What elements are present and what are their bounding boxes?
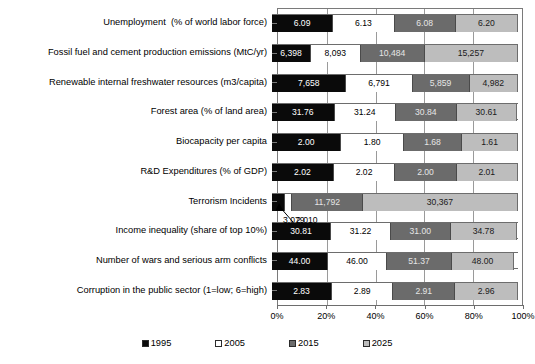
category-label: Terrorism Incidents	[0, 196, 272, 207]
bar-segment-2005: 2.89	[332, 283, 393, 300]
bar-segment-1995: 31.76	[272, 104, 335, 121]
chart-rows: Unemployment (% of world labor force)6.0…	[0, 8, 534, 305]
segment-value-label: 6.08	[416, 19, 433, 28]
segment-value-label: 11,792	[314, 198, 340, 207]
segment-value-label: 1.61	[481, 138, 498, 147]
bar-segment-1995: 2.02	[272, 164, 334, 181]
segment-value-label: 6.20	[478, 19, 495, 28]
segment-value-label: 6.09	[294, 19, 311, 28]
legend-item-2005[interactable]: 2005	[215, 338, 245, 348]
segment-value-label: 34.78	[473, 227, 495, 236]
x-axis-tick-label: 40%	[366, 311, 384, 322]
segment-value-label: 44.00	[289, 257, 311, 266]
segment-value-label: 2.91	[415, 287, 432, 296]
bar-segment-1995: 44.00	[272, 253, 328, 270]
legend-swatch-icon	[142, 340, 149, 347]
legend-swatch-icon	[215, 340, 222, 347]
segment-value-label: 15,257	[458, 49, 484, 58]
segment-value-label: 31.00	[410, 227, 432, 236]
category-label: Corruption in the public sector (1=low; …	[0, 285, 272, 296]
bar-segment-1995: 6,398	[272, 45, 311, 62]
y-axis-tick	[272, 82, 277, 83]
bar-segment-2015: 1.68	[404, 134, 462, 151]
segment-value-label: 2.00	[298, 138, 315, 147]
bar-segment-1995: 6.09	[272, 15, 333, 32]
y-axis-tick	[272, 112, 277, 113]
bar-segment-2025: 6.20	[456, 15, 518, 32]
segment-value-label: 7,658	[298, 79, 320, 88]
bar-segment-2025: 30,367	[363, 194, 518, 211]
bar-segment-2015: 30.84	[396, 104, 457, 121]
bar-track: 31.7631.2430.8430.61	[272, 103, 518, 120]
segment-value-label: 2.01	[478, 168, 495, 177]
category-label: Fossil fuel and cement production emissi…	[0, 47, 272, 58]
y-axis-tick	[272, 231, 277, 232]
chart-row: Corruption in the public sector (1=low; …	[0, 275, 534, 305]
chart-row: R&D Expenditures (% of GDP)2.022.022.002…	[0, 157, 534, 187]
x-axis-tick	[425, 305, 426, 309]
bar-segment-2005: 6,791	[346, 75, 412, 92]
chart-row: Unemployment (% of world labor force)6.0…	[0, 8, 534, 38]
bar-segment-2025: 30.61	[457, 104, 517, 121]
bar-segment-2005: 31.22	[331, 223, 391, 240]
legend-item-1995[interactable]: 1995	[142, 338, 172, 348]
bar-segment-2025: 34.78	[451, 223, 518, 240]
bar-segment-2015: 51.37	[387, 253, 453, 270]
segment-value-label: 6.13	[355, 19, 372, 28]
category-label: Number of wars and serious arm conflicts	[0, 255, 272, 266]
bar-segment-2005: 31.24	[335, 104, 397, 121]
segment-value-label: 2.00	[417, 168, 434, 177]
bar-segment-2015: 5,859	[413, 75, 470, 92]
segment-value-label: 2.96	[478, 287, 495, 296]
bar-segment-2015: 31.00	[391, 223, 451, 240]
y-axis-tick	[272, 290, 277, 291]
bar-segment-2015: 2.91	[393, 283, 455, 300]
bar-segment-2005: 2.02	[334, 164, 396, 181]
bar-segment-2005: 6.13	[333, 15, 395, 32]
category-label: Biocapacity per capita	[0, 136, 272, 147]
segment-value-label: 30.81	[290, 227, 312, 236]
chart-row: Renewable internal freshwater resources …	[0, 67, 534, 97]
legend-swatch-icon	[289, 340, 296, 347]
x-axis-line	[277, 305, 523, 306]
y-axis-tick	[272, 23, 277, 24]
legend-label: 2005	[224, 338, 245, 348]
segment-value-label: 31.22	[350, 227, 372, 236]
bar-segment-2025: 48.00	[452, 253, 513, 270]
y-axis-tick	[272, 53, 277, 54]
bar-track: 6,3988,09310,48415,257	[272, 44, 518, 61]
segment-value-label: 31.24	[354, 108, 376, 117]
segment-value-label: 6,791	[368, 79, 390, 88]
x-axis-tick-label: 0%	[270, 311, 283, 322]
legend-swatch-icon	[363, 340, 370, 347]
bar-segment-2015: 10,484	[361, 45, 425, 62]
legend-item-2025[interactable]: 2025	[363, 338, 393, 348]
bar-segment-2015: 2.00	[395, 164, 456, 181]
bar-segment-2025: 2.96	[455, 283, 518, 300]
segment-value-label: 2.89	[354, 287, 371, 296]
bar-track: 6.096.136.086.20	[272, 14, 518, 31]
bar-segment-1995: 7,658	[272, 75, 346, 92]
y-axis-tick	[272, 171, 277, 172]
segment-value-label: 4,982	[482, 79, 504, 88]
x-axis-tick-label: 20%	[317, 311, 335, 322]
segment-value-label: 6,398	[280, 49, 302, 58]
segment-value-label: 30,367	[427, 198, 453, 207]
segment-value-label: 5,859	[430, 79, 452, 88]
bar-segment-2025: 1.61	[462, 134, 518, 151]
bar-track: 2.001.801.681.61	[272, 133, 518, 150]
legend-item-2015[interactable]: 2015	[289, 338, 319, 348]
bar-track: 7,6586,7915,8594,982	[272, 74, 518, 91]
terrorism-2005-annotation: 2,010	[296, 215, 318, 225]
chart-legend: 1995200520152025	[0, 338, 534, 348]
bar-segment-2005: 8,093	[311, 45, 360, 62]
segment-value-label: 1.80	[364, 138, 381, 147]
segment-value-label: 1.68	[424, 138, 441, 147]
segment-value-label: 46.00	[346, 257, 368, 266]
segment-value-label: 2.02	[294, 168, 311, 177]
bar-track: 2.022.022.002.01	[272, 163, 518, 180]
segment-value-label: 10,484	[379, 49, 405, 58]
bar-segment-2025: 15,257	[425, 45, 518, 62]
segment-value-label: 2.02	[356, 168, 373, 177]
x-axis-tick-label: 100%	[511, 311, 534, 322]
